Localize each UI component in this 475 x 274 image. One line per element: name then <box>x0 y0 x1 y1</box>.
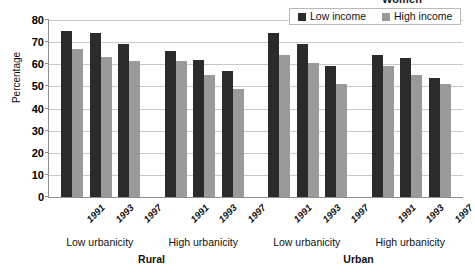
legend-swatch-low-income <box>298 13 306 21</box>
x-axis-region-label: Urban <box>255 253 462 265</box>
y-axis-tick-mark <box>45 41 49 42</box>
legend-entry-low-income: Low income <box>298 11 366 22</box>
bar-low-income <box>372 55 383 197</box>
bar-low-income <box>193 60 204 197</box>
bar-high-income <box>129 61 140 197</box>
x-axis-year-label: 1993 <box>113 202 136 225</box>
x-axis-year-label: 1997 <box>452 202 475 225</box>
x-axis-year-label: 1997 <box>141 202 164 225</box>
bar-high-income <box>336 84 347 197</box>
x-axis-urbanicity-label: High urbanicity <box>359 236 463 248</box>
y-axis-tick-mark <box>45 63 49 64</box>
y-axis-tick-mark <box>45 196 49 197</box>
bar-high-income <box>176 61 187 197</box>
x-axis-region-label: Rural <box>48 253 255 265</box>
bar-low-income <box>118 44 129 197</box>
y-axis-tick-label: 0 <box>38 192 44 203</box>
bar-high-income <box>308 63 319 197</box>
chart-legend: Low income High income <box>289 8 461 25</box>
x-axis-year-label: 1991 <box>395 202 418 225</box>
x-axis-year-label: 1991 <box>188 202 211 225</box>
y-axis-tick-label: 60 <box>32 59 44 70</box>
legend-label-low-income: Low income <box>310 11 366 22</box>
legend-entry-high-income: High income <box>382 11 452 22</box>
y-axis-tick-mark <box>45 152 49 153</box>
y-axis-tick-label: 70 <box>32 37 44 48</box>
gridline <box>49 42 463 43</box>
bar-high-income <box>279 55 290 197</box>
bar-low-income <box>325 66 336 197</box>
chart-title: Women <box>0 0 468 5</box>
bar-low-income <box>222 71 233 197</box>
bar-low-income <box>429 78 440 197</box>
bar-high-income <box>383 66 394 197</box>
bar-low-income <box>90 33 101 197</box>
y-axis-tick-mark <box>45 85 49 86</box>
x-axis-year-label: 1993 <box>216 202 239 225</box>
bar-low-income <box>400 58 411 197</box>
plot-area: 01020304050607080 <box>48 20 463 198</box>
y-axis-tick-mark <box>45 174 49 175</box>
y-axis-tick-mark <box>45 130 49 131</box>
bar-high-income <box>72 49 83 197</box>
bar-high-income <box>204 75 215 197</box>
x-axis-urbanicity-label: Low urbanicity <box>48 236 152 248</box>
x-axis-year-label: 1993 <box>320 202 343 225</box>
bar-low-income <box>165 51 176 197</box>
y-axis-tick-mark <box>45 19 49 20</box>
x-axis-year-label: 1997 <box>348 202 371 225</box>
bar-low-income <box>297 44 308 197</box>
y-axis-title: Percentage <box>11 18 22 138</box>
bar-high-income <box>233 89 244 197</box>
y-axis-tick-label: 40 <box>32 103 44 114</box>
x-axis-year-label: 1997 <box>245 202 268 225</box>
x-axis-urbanicity-label: High urbanicity <box>152 236 256 248</box>
y-axis-tick-mark <box>45 108 49 109</box>
bar-high-income <box>101 57 112 197</box>
bar-high-income <box>411 75 422 197</box>
x-axis-year-label: 1991 <box>291 202 314 225</box>
x-axis-urbanicity-label: Low urbanicity <box>255 236 359 248</box>
bar-low-income <box>61 31 72 197</box>
y-axis-tick-label: 20 <box>32 147 44 158</box>
x-axis-year-label: 1993 <box>423 202 446 225</box>
legend-label-high-income: High income <box>394 11 452 22</box>
y-axis-tick-label: 80 <box>32 15 44 26</box>
y-axis-tick-label: 10 <box>32 169 44 180</box>
legend-swatch-high-income <box>382 13 390 21</box>
bar-low-income <box>268 33 279 197</box>
bar-high-income <box>440 84 451 197</box>
y-axis-tick-label: 30 <box>32 125 44 136</box>
x-axis-year-label: 1991 <box>84 202 107 225</box>
y-axis-tick-label: 50 <box>32 81 44 92</box>
